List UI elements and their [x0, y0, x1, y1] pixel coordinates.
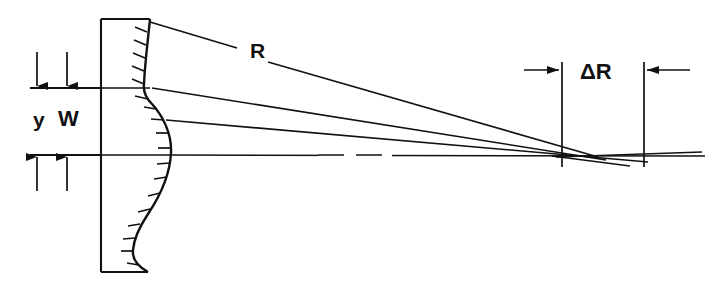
label-r: R — [250, 39, 265, 62]
optical-ray-diagram-figure: y W R ΔR — [0, 0, 710, 295]
label-w: W — [58, 106, 79, 131]
marginal-ray-upper-segment-a — [150, 22, 237, 48]
deformed-mirror-surface — [133, 19, 171, 272]
ray-bundle — [150, 22, 705, 166]
mirror-substrate-body — [101, 19, 171, 272]
label-delta-r: ΔR — [580, 59, 612, 84]
diagram-canvas: y W R ΔR — [0, 0, 710, 295]
label-y: y — [33, 108, 45, 131]
